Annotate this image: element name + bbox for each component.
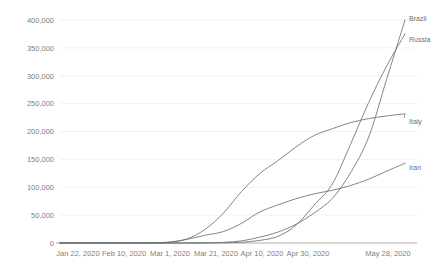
series-line-russia bbox=[60, 34, 405, 243]
x-axis-tick-label: Apr 10, 2020 bbox=[241, 249, 284, 258]
y-axis-tick-label: 100,000 bbox=[27, 183, 54, 192]
series-leader-italy bbox=[404, 114, 405, 118]
series-label-brazil: Brazil bbox=[409, 15, 427, 22]
series-label-italy: Italy bbox=[409, 118, 422, 126]
y-axis-tick-label: 350,000 bbox=[27, 44, 54, 53]
y-axis-tick-label: 400,000 bbox=[27, 16, 54, 25]
y-axis-tick-label: 150,000 bbox=[27, 155, 54, 164]
x-axis-tick-label: Mar 21, 2020 bbox=[194, 249, 238, 258]
series-label-russia: Russia bbox=[409, 36, 431, 43]
y-axis-tick-label: 300,000 bbox=[27, 72, 54, 81]
series-line-iran bbox=[60, 163, 405, 243]
y-axis-tick-label: 250,000 bbox=[27, 99, 54, 108]
chart-canvas: 400,000350,000300,000250,000200,000150,0… bbox=[0, 0, 442, 271]
y-axis-tick-label: 0 bbox=[50, 239, 54, 248]
series-label-iran: Iran bbox=[409, 164, 421, 171]
x-axis-tick-label: Apr 30, 2020 bbox=[287, 249, 330, 258]
x-axis-tick-label: Jan 22, 2020 bbox=[56, 249, 99, 258]
series-line-italy bbox=[60, 114, 405, 243]
y-axis-tick-label: 50,000 bbox=[31, 211, 54, 220]
x-axis-tick-label: Mar 1, 2020 bbox=[150, 249, 190, 258]
line-chart: 400,000350,000300,000250,000200,000150,0… bbox=[0, 0, 442, 271]
x-axis-tick-label: May 28, 2020 bbox=[365, 249, 410, 258]
x-axis-tick-label: Feb 10, 2020 bbox=[102, 249, 146, 258]
y-axis-tick-label: 200,000 bbox=[27, 127, 54, 136]
